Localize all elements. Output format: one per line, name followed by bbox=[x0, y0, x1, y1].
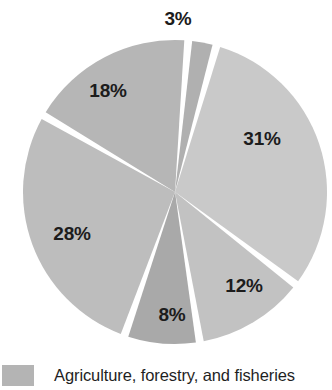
legend-swatch-icon bbox=[2, 365, 34, 386]
chart-legend: Agriculture, forestry, and fisheries bbox=[0, 360, 332, 390]
pie-chart: 3%31%12%8%28%18% Agriculture, forestry, … bbox=[0, 0, 332, 390]
pie-svg bbox=[0, 0, 332, 356]
pie-slice-group bbox=[23, 40, 327, 344]
pie-plot-area: 3%31%12%8%28%18% bbox=[0, 0, 332, 356]
legend-item: Agriculture, forestry, and fisheries bbox=[0, 365, 295, 386]
legend-item-label: Agriculture, forestry, and fisheries bbox=[54, 366, 295, 385]
